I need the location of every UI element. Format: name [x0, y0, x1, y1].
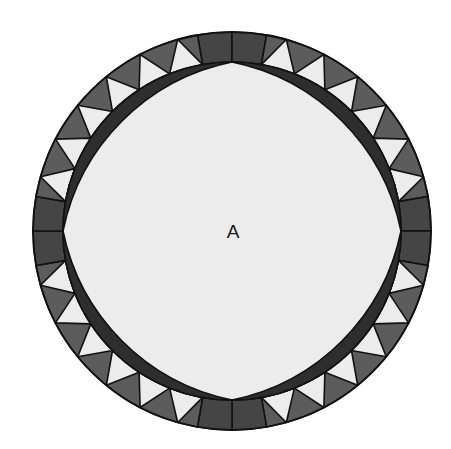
- border-square: [33, 231, 66, 266]
- border-square: [33, 196, 66, 231]
- quilt-block-diagram: A: [0, 0, 451, 449]
- border-square: [398, 196, 431, 231]
- border-square: [197, 397, 232, 430]
- border-square: [398, 231, 431, 266]
- border-square: [197, 32, 232, 65]
- center-label: A: [227, 221, 240, 242]
- border-square: [232, 32, 267, 65]
- border-square: [232, 397, 267, 430]
